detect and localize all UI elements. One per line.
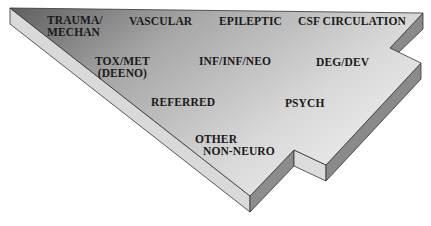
- diagram-canvas: TRAUMA/MECHAN VASCULAR EPILEPTIC CSF CIR…: [0, 0, 431, 226]
- label-inf-neo: INF/INF/NEO: [199, 55, 271, 67]
- label-trauma: TRAUMA/MECHAN: [47, 14, 103, 38]
- label-deg-dev: DEG/DEV: [316, 56, 369, 68]
- label-vascular: VASCULAR: [129, 15, 192, 27]
- label-psych: PSYCH: [285, 97, 324, 109]
- label-csf-circulation: CSF CIRCULATION: [298, 15, 406, 27]
- label-referred: REFERRED: [151, 96, 215, 108]
- label-other: OTHERNON-NEURO: [195, 133, 275, 157]
- label-epileptic: EPILEPTIC: [219, 15, 282, 27]
- label-toxmet: TOX/MET(DEENO): [95, 55, 150, 79]
